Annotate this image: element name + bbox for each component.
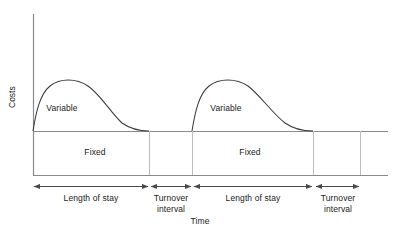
- length-of-stay-label-1: Length of stay: [64, 193, 119, 203]
- variable-label-2: Variable: [210, 103, 241, 113]
- y-axis-label: Costs: [7, 86, 17, 108]
- turnover-label-1-line2: interval: [157, 204, 185, 214]
- chart-figure: Costs Variable Variable Fixed Fixed Leng…: [0, 0, 397, 234]
- variable-label-1: Variable: [46, 103, 77, 113]
- x-axis-label: Time: [191, 216, 210, 226]
- turnover-label-2-line2: interval: [324, 204, 352, 214]
- length-of-stay-label-2: Length of stay: [226, 193, 281, 203]
- turnover-label-1-line1: Turnover: [154, 193, 189, 203]
- fixed-label-2: Fixed: [239, 147, 260, 157]
- turnover-label-2-line1: Turnover: [321, 193, 356, 203]
- fixed-label-1: Fixed: [84, 147, 105, 157]
